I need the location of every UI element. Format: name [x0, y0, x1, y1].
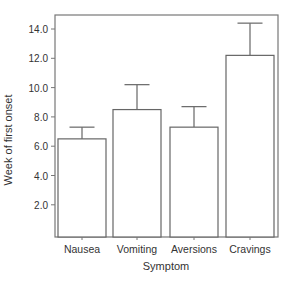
x-tick-label: Cravings [229, 243, 270, 255]
y-tick-label: 10.0 [29, 83, 49, 94]
bar-rect [58, 139, 106, 237]
x-tick-label: Aversions [171, 243, 217, 255]
bar-aversions [170, 107, 218, 237]
x-tick-label: Nausea [64, 243, 100, 255]
bar-vomiting [113, 85, 161, 237]
bar-rect [226, 55, 274, 237]
y-tick-label: 6.0 [34, 141, 48, 152]
y-axis: 2.04.06.08.010.012.014.0 [29, 24, 55, 211]
bars [58, 23, 274, 237]
x-tick-label: Vomiting [117, 243, 157, 255]
x-axis: NauseaVomitingAversionsCravings [64, 237, 271, 255]
bar-rect [113, 110, 161, 237]
bar-chart: 2.04.06.08.010.012.014.0 NauseaVomitingA… [0, 0, 290, 283]
bar-nausea [58, 127, 106, 237]
bar-rect [170, 127, 218, 237]
y-axis-label: Week of first onset [2, 95, 14, 186]
y-tick-label: 2.0 [34, 200, 48, 211]
y-tick-label: 4.0 [34, 171, 48, 182]
x-axis-label: Symptom [143, 260, 189, 272]
y-tick-label: 8.0 [34, 112, 48, 123]
y-tick-label: 14.0 [29, 24, 49, 35]
bar-cravings [226, 23, 274, 237]
y-tick-label: 12.0 [29, 53, 49, 64]
